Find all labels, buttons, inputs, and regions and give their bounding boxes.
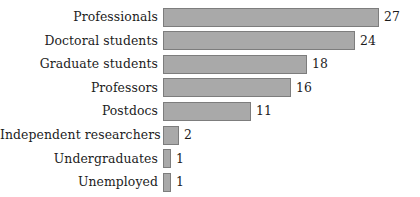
bar-row: Unemployed1 [0,170,420,194]
bar-track: 24 [163,29,376,53]
bar-value-label: 11 [256,99,272,123]
bar-track: 1 [163,147,184,171]
bar-row: Professors16 [0,76,420,100]
bar [163,149,171,168]
bar-chart: Professionals27Doctoral students24Gradua… [0,0,420,197]
bar-value-label: 1 [176,170,184,194]
bar-value-label: 1 [176,147,184,171]
category-label: Unemployed [0,170,158,194]
bar-value-label: 2 [184,123,192,147]
bar [163,173,171,192]
bar-value-label: 16 [296,76,312,100]
bar-row: Postdocs11 [0,99,420,123]
bar-value-label: 27 [384,5,400,29]
bar [163,31,355,50]
category-label: Independent researchers [0,123,158,147]
bar-value-label: 18 [312,52,328,76]
bar-track: 27 [163,5,400,29]
bar-row: Undergraduates1 [0,147,420,171]
category-label: Undergraduates [0,147,158,171]
bar-track: 18 [163,52,328,76]
bar [163,126,179,145]
bar [163,55,307,74]
bar-track: 11 [163,99,272,123]
bar [163,8,379,27]
category-label: Professionals [0,5,158,29]
bar-track: 1 [163,170,184,194]
bar-value-label: 24 [360,29,376,53]
bar-row: Doctoral students24 [0,29,420,53]
bar [163,102,251,121]
bar-track: 2 [163,123,192,147]
category-label: Doctoral students [0,29,158,53]
category-label: Professors [0,76,158,100]
category-label: Graduate students [0,52,158,76]
bar-track: 16 [163,76,312,100]
category-label: Postdocs [0,99,158,123]
bar-row: Independent researchers2 [0,123,420,147]
bar-row: Graduate students18 [0,52,420,76]
bar [163,78,291,97]
bar-row: Professionals27 [0,5,420,29]
